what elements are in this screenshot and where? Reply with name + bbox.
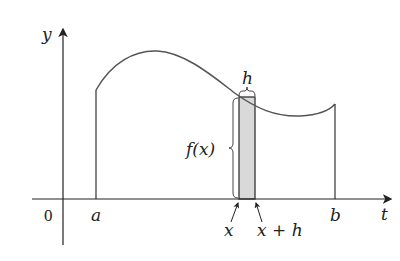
strip [239,97,255,199]
diagram: y t 0 a b x x + h f(x) h [0,0,400,261]
width-label: h [242,68,253,88]
origin-label: 0 [44,206,53,225]
t-axis-label: t [381,204,388,224]
y-axis-label: y [41,24,52,44]
diagram-canvas: y t 0 a b x x + h f(x) h [0,0,400,261]
curve-f [96,51,335,116]
height-label: f(x) [184,139,215,159]
point-x-plus-h-label: x + h [257,220,303,240]
point-a-label: a [91,205,101,225]
point-x-label: x [224,220,234,240]
point-b-label: b [330,205,341,225]
width-brace [239,87,255,96]
height-brace [229,98,238,198]
